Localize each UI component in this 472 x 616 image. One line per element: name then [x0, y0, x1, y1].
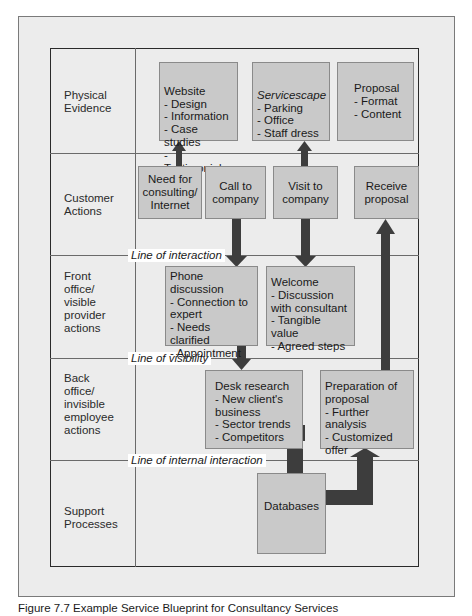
box-phone-discussion: Phone discussion - Connection to expert …	[165, 266, 258, 346]
box-call-to-company: Call to company	[205, 166, 266, 219]
box-need-for-consulting: Need for consulting/ Internet	[138, 166, 202, 219]
box-servicescape-items: - Parking - Office - Staff dress	[257, 102, 325, 140]
row-label-front-office: Front office/ visible provider actions	[64, 270, 106, 335]
box-servicescape-title: Servicescape	[257, 89, 326, 101]
row-divider-physical-customer	[50, 153, 419, 154]
box-proposal: Proposal - Format - Content	[337, 62, 414, 141]
label-column-divider	[135, 48, 136, 567]
box-website-title: Website	[164, 85, 205, 97]
line-of-internal-interaction-label: Line of internal interaction	[128, 454, 266, 467]
box-desk-research: Desk research - New client's business - …	[205, 370, 303, 449]
row-label-physical-evidence: Physical Evidence	[64, 89, 111, 115]
line-of-interaction	[50, 255, 419, 256]
box-welcome: Welcome - Discussion with consultant - T…	[266, 266, 355, 346]
box-website-items: - Design - Information - Case studies - …	[164, 98, 233, 175]
line-of-interaction-label: Line of interaction	[128, 249, 225, 262]
row-label-support-processes: Support Processes	[64, 505, 118, 531]
box-receive-proposal: Receive proposal	[354, 166, 419, 219]
box-visit-to-company: Visit to company	[273, 166, 338, 219]
box-website: Website - Design - Information - Case st…	[159, 62, 238, 141]
figure-caption: Figure 7.7 Example Service Blueprint for…	[18, 602, 338, 614]
box-preparation-of-proposal: Preparation of proposal - Further analys…	[320, 370, 414, 449]
box-databases: Databases	[257, 473, 326, 554]
box-servicescape: Servicescape - Parking - Office - Staff …	[252, 62, 330, 141]
row-label-back-office: Back office/ invisible employee actions	[64, 372, 114, 437]
row-label-customer-actions: Customer Actions	[64, 192, 114, 218]
